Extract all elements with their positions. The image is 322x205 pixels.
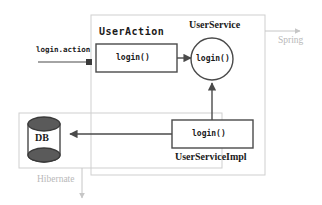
spring-label: Spring bbox=[278, 36, 303, 46]
hibernate-label: Hibernate bbox=[37, 175, 74, 185]
user-service-impl-title: UserServiceImpl bbox=[175, 152, 247, 162]
request-label: login.action bbox=[36, 46, 90, 54]
diagram-canvas: login.action UserAction login() UserServ… bbox=[0, 0, 322, 205]
user-action-title: UserAction bbox=[99, 27, 164, 37]
request-arrow-endpoint bbox=[86, 59, 92, 65]
user-service-method: login() bbox=[196, 55, 230, 63]
db-label: DB bbox=[35, 133, 49, 143]
user-service-impl-method: login() bbox=[192, 130, 226, 138]
user-action-method: login() bbox=[116, 54, 150, 62]
user-service-title: UserService bbox=[189, 20, 240, 30]
